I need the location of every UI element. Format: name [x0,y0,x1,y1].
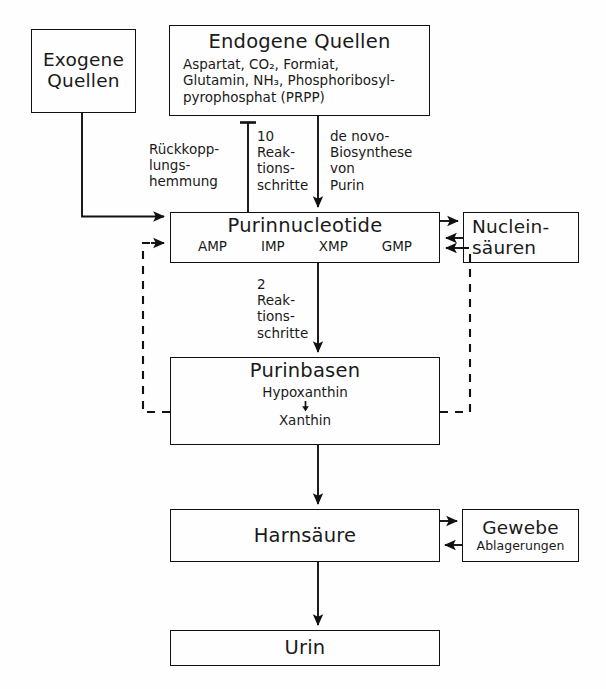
box-urin-title: Urin [285,637,326,659]
box-gewebe: Gewebe Ablagerungen [462,509,579,562]
purinbase-xanthin: Xanthin [279,412,331,429]
label-de-novo-biosynthese: de novo- Biosynthese von Purin [330,128,412,193]
dashed-salvage-left [143,243,170,412]
dashed-salvage-right [440,248,470,412]
box-exogene-quellen: Exogene Quellen [31,29,136,113]
label-10-reaktionsschritte: 10 Reak- tions- schritte [257,128,308,193]
down-arrow-icon [301,401,310,412]
purinbase-hypoxanthin: Hypoxanthin [262,384,348,401]
box-purinbasen-title: Purinbasen [250,360,360,382]
box-purinnucleotide: Purinnucleotide AMP IMP XMP GMP [170,212,440,263]
box-endogene-quellen-substrates: Aspartat, CO₂, Formiat, Glutamin, NH₃, P… [170,56,395,105]
purinnucleotide-list: AMP IMP XMP GMP [171,238,439,254]
box-gewebe-title: Gewebe [482,518,559,539]
box-harnsaure-title: Harnsäure [254,525,357,547]
box-exogene-quellen-title: Exogene Quellen [43,50,124,91]
box-nucleinsauren: Nuclein- säuren [463,212,579,263]
nucleotide-imp: IMP [261,238,285,254]
nucleotide-xmp: XMP [319,238,348,254]
box-endogene-quellen: Endogene Quellen Aspartat, CO₂, Formiat,… [169,25,430,116]
purine-metabolism-diagram: Exogene Quellen Endogene Quellen Asparta… [0,0,606,689]
box-endogene-quellen-title: Endogene Quellen [208,31,390,53]
label-rueckkopplungshemmung: Rückkopp- lungs- hemmung [149,141,219,190]
purinbasen-chain: Hypoxanthin Xanthin [262,384,348,429]
nucleotide-gmp: GMP [382,238,412,254]
label-2-reaktionsschritte: 2 Reak- tions- schritte [257,276,308,341]
box-purinbasen: Purinbasen Hypoxanthin Xanthin [170,357,440,445]
box-urin: Urin [170,630,440,666]
box-gewebe-subtitle: Ablagerungen [477,538,565,553]
box-purinnucleotide-title: Purinnucleotide [228,215,383,237]
box-harnsaure: Harnsäure [170,509,440,562]
box-nucleinsauren-title: Nuclein- säuren [464,217,549,258]
nucleotide-amp: AMP [198,238,227,254]
